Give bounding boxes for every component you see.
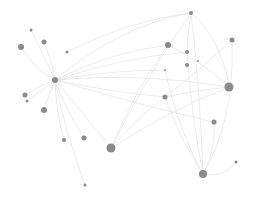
graph-node — [30, 29, 33, 32]
graph-node — [23, 93, 28, 98]
graph-nodes — [18, 11, 238, 187]
graph-edge — [21, 47, 55, 80]
graph-node — [164, 69, 166, 71]
graph-edge — [165, 70, 203, 174]
graph-node — [185, 63, 189, 67]
graph-node — [42, 40, 47, 45]
graph-node — [66, 51, 69, 54]
graph-node — [235, 161, 238, 164]
graph-node — [18, 44, 24, 50]
graph-node — [41, 107, 47, 113]
graph-edge — [25, 80, 55, 95]
graph-node — [165, 42, 171, 48]
graph-edge — [191, 13, 229, 87]
graph-node — [163, 95, 168, 100]
graph-node — [52, 77, 58, 83]
graph-edge — [165, 87, 229, 97]
graph-node — [26, 100, 29, 103]
graph-node — [82, 136, 87, 141]
graph-node — [212, 120, 217, 125]
graph-node — [199, 170, 207, 178]
graph-node — [197, 60, 199, 62]
graph-edge — [165, 97, 203, 174]
graph-edge — [203, 122, 214, 174]
graph-edges — [21, 13, 236, 185]
graph-edge — [111, 97, 165, 148]
graph-edge — [203, 40, 232, 174]
graph-node — [230, 38, 235, 43]
graph-node — [225, 83, 234, 92]
graph-edge — [55, 80, 165, 97]
graph-node — [107, 144, 116, 153]
graph-node — [62, 138, 66, 142]
graph-edge — [191, 13, 203, 174]
graph-node — [84, 184, 87, 187]
graph-node — [185, 50, 189, 54]
graph-node — [189, 11, 193, 15]
graph-edge — [55, 52, 187, 80]
network-graph — [0, 0, 253, 197]
graph-edge — [187, 52, 203, 174]
